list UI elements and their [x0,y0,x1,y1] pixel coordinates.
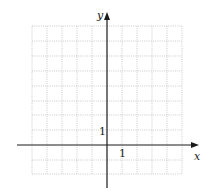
x-tick-label: 1 [119,147,126,160]
coordinate-plane: x y 1 1 [0,0,212,195]
y-axis-label: y [96,9,104,22]
y-axis-arrow-icon [104,12,110,20]
x-axis [17,142,199,148]
y-tick-label: 1 [99,125,106,138]
x-axis-arrow-icon [191,142,199,148]
x-axis-label: x [194,150,201,163]
y-axis [104,12,110,188]
